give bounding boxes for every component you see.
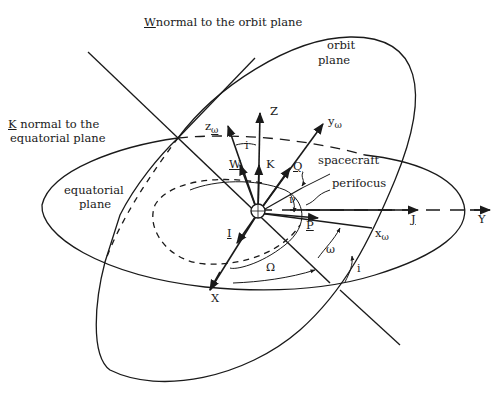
i-vector-label: I [227, 228, 232, 240]
inclination-angle-top: i [245, 140, 249, 151]
inclination-angle-bottom: i [357, 263, 361, 274]
z-omega-axis-label: zω [205, 121, 218, 133]
w-vector-label: W [229, 159, 241, 171]
z-axis-label: Z [270, 106, 278, 118]
orbit-path [153, 179, 300, 264]
y-axis-label: Y [478, 214, 486, 226]
x-axis-label: X [211, 293, 219, 305]
true-anomaly-label: ν [289, 194, 296, 205]
x-omega-axis-label: xω [375, 228, 389, 240]
y-omega-axis-label: yω [328, 116, 342, 128]
arg-perigee-label: ω [326, 244, 335, 255]
diagram-drawing [0, 0, 499, 395]
q-vector-label: Q [293, 161, 302, 173]
raan-label: Ω [266, 262, 275, 273]
equatorial-plane-label-line2: plane [79, 199, 111, 211]
k-vector-label: K [266, 159, 275, 171]
orbit-plane-label-line2: plane [318, 55, 350, 67]
k-normal-label-line2: equatorial plane [10, 133, 105, 145]
j-vector-label: J [411, 214, 416, 226]
orbit-plane-label-line1: orbit [327, 40, 355, 52]
perifocus-label: perifocus [332, 178, 386, 190]
p-vector-label: P [306, 220, 314, 232]
orbital-elements-diagram: Wnormal to the orbit plane K normal to t… [0, 0, 499, 395]
k-normal-label-line1: K normal to the [8, 119, 99, 131]
spacecraft-label: spacecraft [318, 155, 379, 167]
equatorial-plane-label-line1: equatorial [64, 185, 124, 197]
w-normal-label: Wnormal to the orbit plane [144, 17, 302, 29]
